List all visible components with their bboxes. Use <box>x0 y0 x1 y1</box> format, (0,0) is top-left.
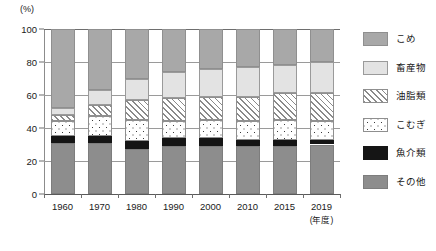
x-tick-label-2010: 2010 <box>237 201 258 212</box>
bar-segment-2000-畜産物 <box>199 69 223 97</box>
bar-segment-1970-こむぎ <box>88 116 112 136</box>
bar-1970 <box>88 29 112 194</box>
bar-1960 <box>51 29 75 194</box>
bar-segment-1990-こむぎ <box>162 121 186 138</box>
x-axis-unit-label: (年度) <box>310 213 334 225</box>
bar-segment-2015-油脂類 <box>273 93 297 119</box>
bar-segment-2019-こむぎ <box>310 121 334 139</box>
bar-segment-2010-こめ <box>236 29 260 67</box>
bar-segment-2000-こむぎ <box>199 120 223 138</box>
bar-1990 <box>162 29 186 194</box>
y-tick-label-60: 60 <box>26 90 37 101</box>
bar-segment-1990-こめ <box>162 29 186 72</box>
bar-segment-2015-魚介類 <box>273 140 297 147</box>
stacked-bar-chart: (%) 020406080100 19601970198019902000201… <box>0 0 436 251</box>
legend-swatch-畜産物 <box>363 61 388 75</box>
bar-segment-1960-その他 <box>51 143 75 194</box>
bar-segment-2019-畜産物 <box>310 62 334 93</box>
legend-swatch-油脂類 <box>363 89 388 103</box>
bar-segment-1960-畜産物 <box>51 108 75 115</box>
bar-segment-1990-魚介類 <box>162 138 186 146</box>
bar-segment-1970-こめ <box>88 29 112 90</box>
legend-label-その他: その他 <box>396 177 426 187</box>
legend-item-油脂類: 油脂類 <box>363 88 433 104</box>
legend-label-畜産物: 畜産物 <box>396 63 426 73</box>
bar-segment-1970-その他 <box>88 143 112 194</box>
bar-2000 <box>199 29 223 194</box>
x-tick-mark-5 <box>229 194 230 198</box>
legend-label-魚介類: 魚介類 <box>396 148 426 158</box>
y-tick-label-40: 40 <box>26 123 37 134</box>
legend-label-こむぎ: こむぎ <box>396 120 426 130</box>
x-tick-mark-1 <box>81 194 82 198</box>
bar-segment-2000-油脂類 <box>199 97 223 120</box>
bar-segment-1960-魚介類 <box>51 136 75 143</box>
bar-segment-1990-油脂類 <box>162 98 186 121</box>
y-tick-label-20: 20 <box>26 156 37 167</box>
bar-segment-1970-畜産物 <box>88 90 112 105</box>
x-tick-label-1980: 1980 <box>126 201 147 212</box>
x-tick-label-2019: 2019 <box>311 201 332 212</box>
bar-segment-2000-その他 <box>199 146 223 194</box>
bar-segment-1990-その他 <box>162 146 186 194</box>
bar-segment-2010-その他 <box>236 146 260 194</box>
bar-segment-1960-こめ <box>51 29 75 108</box>
bar-segment-2015-その他 <box>273 146 297 194</box>
bar-segment-2019-こめ <box>310 29 334 62</box>
x-tick-label-1960: 1960 <box>52 201 73 212</box>
bar-segment-2015-畜産物 <box>273 65 297 93</box>
bar-1980 <box>125 29 149 194</box>
bar-segment-2015-こめ <box>273 29 297 65</box>
legend-item-その他: その他 <box>363 174 433 190</box>
x-tick-mark-4 <box>192 194 193 198</box>
legend-swatch-こむぎ <box>363 118 388 132</box>
legend-label-油脂類: 油脂類 <box>396 91 426 101</box>
bar-segment-1980-その他 <box>125 149 149 194</box>
bar-segment-2010-油脂類 <box>236 97 260 122</box>
y-tick-label-0: 0 <box>32 189 37 200</box>
x-tick-mark-7 <box>303 194 304 198</box>
bar-segment-2019-魚介類 <box>310 140 334 145</box>
x-tick-mark-0 <box>44 194 45 198</box>
bar-segment-1980-油脂類 <box>125 100 149 120</box>
legend-item-魚介類: 魚介類 <box>363 145 433 161</box>
bar-segment-1980-こむぎ <box>125 120 149 141</box>
legend-label-こめ: こめ <box>396 34 416 44</box>
x-tick-label-2015: 2015 <box>274 201 295 212</box>
bar-segment-1960-油脂類 <box>51 115 75 122</box>
bar-segment-2010-魚介類 <box>236 140 260 147</box>
legend: こめ畜産物油脂類こむぎ魚介類その他 <box>363 31 433 202</box>
x-tick-mark-3 <box>155 194 156 198</box>
bar-segment-2000-魚介類 <box>199 138 223 146</box>
x-tick-mark-2 <box>118 194 119 198</box>
bar-segment-2019-油脂類 <box>310 93 334 121</box>
x-tick-label-1990: 1990 <box>163 201 184 212</box>
y-tick-label-80: 80 <box>26 57 37 68</box>
bar-segment-2000-こめ <box>199 29 223 69</box>
x-tick-mark-8 <box>340 194 341 198</box>
y-axis-unit-label: (%) <box>20 4 34 14</box>
legend-swatch-こめ <box>363 32 388 46</box>
bar-segment-1990-畜産物 <box>162 72 186 98</box>
legend-item-こむぎ: こむぎ <box>363 117 433 133</box>
legend-swatch-その他 <box>363 175 388 189</box>
bar-segment-1970-魚介類 <box>88 136 112 143</box>
plot-area: 020406080100 <box>44 29 340 194</box>
bar-segment-2019-その他 <box>310 145 334 195</box>
legend-item-こめ: こめ <box>363 31 433 47</box>
x-tick-mark-6 <box>266 194 267 198</box>
bar-segment-1980-こめ <box>125 29 149 79</box>
y-tick-label-100: 100 <box>21 24 37 35</box>
bar-group <box>44 29 340 194</box>
x-tick-label-1970: 1970 <box>89 201 110 212</box>
bar-segment-1970-油脂類 <box>88 105 112 117</box>
bar-2019 <box>310 29 334 194</box>
bar-segment-2010-こむぎ <box>236 121 260 139</box>
bar-segment-1980-魚介類 <box>125 141 149 149</box>
bar-segment-1980-畜産物 <box>125 79 149 100</box>
bar-segment-2010-畜産物 <box>236 67 260 97</box>
bar-2015 <box>273 29 297 194</box>
x-tick-label-2000: 2000 <box>200 201 221 212</box>
legend-item-畜産物: 畜産物 <box>363 60 433 76</box>
bar-2010 <box>236 29 260 194</box>
